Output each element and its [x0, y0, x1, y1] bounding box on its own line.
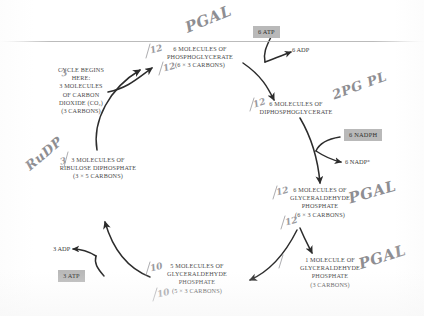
stroke-slash-gap1 — [279, 255, 283, 268]
calvin-cycle-diagram: CYCLE BEGINS HERE: 3 MOLECULES OF CARBON… — [0, 0, 424, 316]
